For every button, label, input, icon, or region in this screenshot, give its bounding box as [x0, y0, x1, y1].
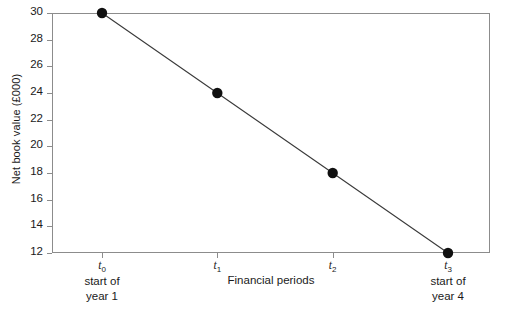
x-tick-label: t1: [157, 259, 277, 274]
y-tick-mark: [47, 173, 52, 174]
x-tick-mark: [333, 253, 334, 258]
y-tick-label: 28: [30, 32, 43, 44]
y-tick-mark: [47, 13, 52, 14]
x-axis-title: Financial periods: [52, 274, 490, 286]
y-tick-mark: [47, 120, 52, 121]
y-tick-label: 16: [30, 192, 43, 204]
y-tick-label: 12: [30, 245, 43, 257]
y-tick-mark: [47, 66, 52, 67]
y-tick-mark: [47, 253, 52, 254]
depreciation-line-chart: Net book value (£000) 121416182022242628…: [0, 0, 510, 312]
y-tick-label: 18: [30, 165, 43, 177]
y-tick-mark: [47, 200, 52, 201]
y-tick-mark: [47, 226, 52, 227]
x-tick-mark: [217, 253, 218, 258]
y-tick-label: 14: [30, 218, 43, 230]
x-tick-mark: [448, 253, 449, 258]
plot-area: [52, 13, 490, 253]
x-tick-mark: [102, 253, 103, 258]
y-tick-label: 30: [30, 5, 43, 17]
y-tick-mark: [47, 40, 52, 41]
y-tick-label: 24: [30, 85, 43, 97]
x-tick-label: t0: [42, 259, 162, 274]
y-tick-label: 22: [30, 112, 43, 124]
y-tick-label: 26: [30, 58, 43, 70]
y-tick-label: 20: [30, 138, 43, 150]
y-tick-mark: [47, 93, 52, 94]
y-tick-mark: [47, 146, 52, 147]
y-axis-title: Net book value (£000): [10, 29, 22, 229]
x-tick-label: t2: [273, 259, 393, 274]
x-tick-label: t3: [388, 259, 508, 274]
